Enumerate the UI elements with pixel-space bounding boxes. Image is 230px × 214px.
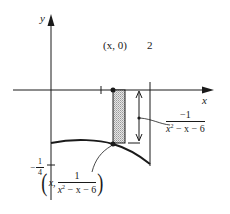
point-bottom-fraction: 1 x2 − x − 6 bbox=[58, 171, 97, 195]
height-fraction-label: −1 x2 − x − 6 bbox=[166, 110, 205, 134]
point-top-label: (x, 0) bbox=[103, 40, 127, 51]
height-denominator: x2 − x − 6 bbox=[166, 122, 205, 134]
open-paren: ( bbox=[41, 168, 47, 198]
shaded-strip bbox=[113, 90, 125, 143]
x-tick-label: 2 bbox=[147, 40, 153, 51]
x-axis-arrow-icon bbox=[202, 87, 214, 94]
function-curve bbox=[51, 140, 150, 164]
point-bottom-numerator: 1 bbox=[72, 171, 81, 182]
point-bottom bbox=[111, 142, 116, 147]
height-arrow bbox=[136, 91, 170, 141]
y-tick-numerator: 1 bbox=[36, 158, 44, 167]
x-axis-label: x bbox=[202, 95, 207, 106]
point-bottom-x: x, bbox=[49, 178, 56, 188]
y-axis-arrow-icon bbox=[48, 14, 55, 26]
point-bottom-denominator: x2 − x − 6 bbox=[58, 183, 97, 195]
close-paren: ) bbox=[98, 168, 104, 198]
y-axis-label: y bbox=[40, 13, 45, 24]
height-numerator: −1 bbox=[178, 110, 193, 121]
diagram-canvas bbox=[0, 0, 230, 214]
point-bottom-label: ( x, 1 x2 − x − 6 ) bbox=[40, 168, 105, 198]
point-top bbox=[111, 88, 116, 93]
y-tick-sign: − bbox=[30, 163, 35, 172]
